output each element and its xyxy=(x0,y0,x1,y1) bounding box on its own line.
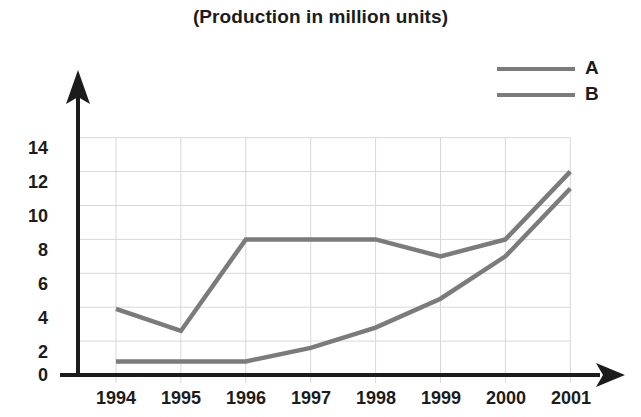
series-line-b xyxy=(116,189,570,362)
chart-plot-area xyxy=(0,0,641,417)
chart-container: (Production in million units) A B 14 12 … xyxy=(0,0,641,417)
arrow-right-icon xyxy=(596,363,625,387)
chart-series-lines xyxy=(116,172,570,362)
